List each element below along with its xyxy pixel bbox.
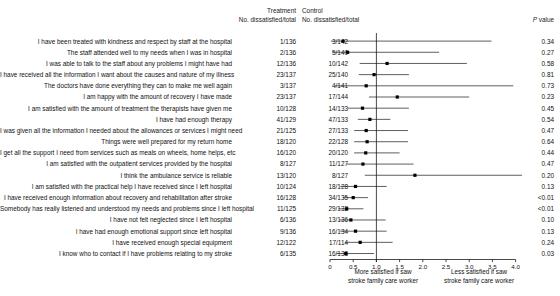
row-treatment-value: 23/137 — [236, 91, 296, 102]
row-treatment-value: 3/137 — [236, 80, 296, 91]
table-row: I get all the support I need from servic… — [0, 147, 560, 158]
axis-caption-left-line2: stroke family care worker — [328, 277, 438, 286]
row-pvalue: 0.20 — [498, 170, 554, 181]
row-pvalue: 0.45 — [498, 103, 554, 114]
table-row: I am satisfied with the outpatient servi… — [0, 158, 560, 169]
row-control-value: 3/142 — [300, 36, 348, 47]
axis-caption-right-line1: Less satisfied if saw — [424, 268, 534, 277]
row-control-value: 16/134 — [300, 226, 348, 237]
row-treatment-value: 41/129 — [236, 114, 296, 125]
table-row: The staff attended well to my needs when… — [0, 47, 560, 58]
row-control-value: 13/136 — [300, 214, 348, 225]
row-treatment-value: 6/135 — [236, 248, 296, 259]
row-treatment-value: 9/136 — [236, 226, 296, 237]
row-treatment-value: 16/128 — [236, 192, 296, 203]
row-question-label: I have received all the information I wa… — [0, 69, 232, 80]
row-pvalue: 0.10 — [498, 214, 554, 225]
row-treatment-value: 10/124 — [236, 181, 296, 192]
row-question-label: Things were well prepared for my return … — [0, 136, 232, 147]
row-control-value: 20/120 — [300, 147, 348, 158]
row-question-label: I have not felt neglected since I left h… — [0, 214, 232, 225]
row-question-label: I have received enough special equipment — [0, 237, 232, 248]
row-control-value: 27/133 — [300, 125, 348, 136]
row-treatment-value: 10/128 — [236, 103, 296, 114]
axis-caption-left-line1: More satisfied if saw — [328, 268, 438, 277]
row-control-value: 17/114 — [300, 237, 348, 248]
row-control-value: 29/132 — [300, 203, 348, 214]
row-treatment-value: 6/136 — [236, 214, 296, 225]
row-pvalue: 0.23 — [498, 91, 554, 102]
table-row: I was able to talk to the staff about an… — [0, 58, 560, 69]
forest-plot-figure: Treatment No. dissatisfied/total Control… — [0, 0, 560, 296]
axis-caption-right-line2: stroke family care worker — [424, 277, 534, 286]
table-row: I know who to contact if I have problems… — [0, 248, 560, 259]
row-pvalue: 0.54 — [498, 114, 554, 125]
table-row: I was given all the information I needed… — [0, 125, 560, 136]
row-pvalue: 0.73 — [498, 80, 554, 91]
row-question-label: I think the ambulance service is reliabl… — [0, 170, 232, 181]
row-pvalue: 0.81 — [498, 69, 554, 80]
row-question-label: I get all the support I need from servic… — [0, 147, 232, 158]
row-question-label: Somebody has really listened and underst… — [0, 203, 232, 214]
row-pvalue: 0.44 — [498, 147, 554, 158]
row-question-label: The staff attended well to my needs when… — [0, 47, 232, 58]
column-header-control-sub: No. dissatisfied/total — [302, 16, 382, 24]
row-question-label: I was able to talk to the staff about an… — [0, 58, 232, 69]
table-row: I have received enough special equipment… — [0, 237, 560, 248]
row-question-label: I am satisfied with the amount of treatm… — [0, 103, 232, 114]
row-question-label: I have been treated with kindness and re… — [0, 36, 232, 47]
table-row: I have been treated with kindness and re… — [0, 36, 560, 47]
row-question-label: I have had enough therapy — [0, 114, 232, 125]
row-pvalue: <0.01 — [498, 192, 554, 203]
row-question-label: I am satisfied with the practical help I… — [0, 181, 232, 192]
row-treatment-value: 18/120 — [236, 136, 296, 147]
row-control-value: 18/128 — [300, 181, 348, 192]
pvalue-word: value — [537, 16, 554, 23]
row-question-label: I have had enough emotional support sinc… — [0, 226, 232, 237]
row-control-value: 34/135 — [300, 192, 348, 203]
table-row: I am satisfied with the practical help I… — [0, 181, 560, 192]
table-row: I have had enough emotional support sinc… — [0, 226, 560, 237]
row-treatment-value: 2/136 — [236, 47, 296, 58]
table-row: I am happy with the amount of recovery I… — [0, 91, 560, 102]
table-row: The doctors have done everything they ca… — [0, 80, 560, 91]
row-treatment-value: 13/120 — [236, 170, 296, 181]
column-header-treatment-sub: No. dissatisfied/total — [216, 16, 296, 24]
column-header-treatment: Treatment — [236, 7, 296, 15]
table-row: I have had enough therapy41/12947/1330.5… — [0, 114, 560, 125]
row-pvalue: 0.64 — [498, 136, 554, 147]
row-control-value: 10/142 — [300, 58, 348, 69]
row-treatment-value: 16/120 — [236, 147, 296, 158]
row-control-value: 16/138 — [300, 248, 348, 259]
row-treatment-value: 12/122 — [236, 237, 296, 248]
row-pvalue: 0.13 — [498, 181, 554, 192]
row-question-label: I have received enough information about… — [0, 192, 232, 203]
row-control-value: 5/140 — [300, 47, 348, 58]
table-row: Somebody has really listened and underst… — [0, 203, 560, 214]
row-pvalue: 0.47 — [498, 125, 554, 136]
row-control-value: 11/127 — [300, 158, 348, 169]
row-question-label: I am happy with the amount of recovery I… — [0, 91, 232, 102]
axis-caption-right: Less satisfied if saw stroke family care… — [424, 268, 534, 285]
row-treatment-value: 21/125 — [236, 125, 296, 136]
row-pvalue: <0.01 — [498, 203, 554, 214]
row-control-value: 8/127 — [300, 170, 348, 181]
row-question-label: I was given all the information I needed… — [0, 125, 232, 136]
table-row: I have not felt neglected since I left h… — [0, 214, 560, 225]
row-control-value: 47/133 — [300, 114, 348, 125]
row-treatment-value: 23/137 — [236, 69, 296, 80]
row-control-value: 4/141 — [300, 80, 348, 91]
row-pvalue: 0.47 — [498, 158, 554, 169]
column-header-pvalue: P value — [498, 16, 554, 24]
x-axis — [330, 260, 516, 263]
row-treatment-value: 1/136 — [236, 36, 296, 47]
row-treatment-value: 12/136 — [236, 58, 296, 69]
row-pvalue: 0.34 — [498, 36, 554, 47]
row-control-value: 17/144 — [300, 91, 348, 102]
column-header-control: Control — [302, 7, 372, 15]
table-row: I am satisfied with the amount of treatm… — [0, 103, 560, 114]
axis-caption-left: More satisfied if saw stroke family care… — [328, 268, 438, 285]
table-row: I have received all the information I wa… — [0, 69, 560, 80]
row-question-label: The doctors have done everything they ca… — [0, 80, 232, 91]
table-row: I think the ambulance service is reliabl… — [0, 170, 560, 181]
